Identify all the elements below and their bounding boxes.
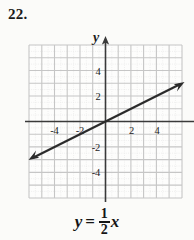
equation-lhs: y bbox=[75, 212, 83, 231]
x-tick-label-2: 2 bbox=[129, 125, 134, 136]
y-tick-label-4: 4 bbox=[95, 66, 101, 77]
coordinate-graph: y -4 -2 2 4 4 2 -2 -4 bbox=[0, 26, 194, 206]
fraction-numerator: 1 bbox=[99, 207, 110, 221]
equation-caption: y=12x bbox=[0, 207, 194, 237]
y-axis-label: y bbox=[91, 30, 100, 45]
y-tick-label-2: 2 bbox=[95, 91, 100, 102]
equation-relation: = bbox=[85, 212, 95, 231]
fraction-denominator: 2 bbox=[99, 223, 110, 237]
equation-fraction: 12 bbox=[99, 207, 110, 237]
problem-figure: 22. bbox=[0, 0, 194, 240]
y-tick-label--2: -2 bbox=[92, 142, 101, 153]
problem-number: 22. bbox=[8, 6, 27, 23]
y-tick-label--4: -4 bbox=[92, 167, 101, 178]
equation-rhs-variable: x bbox=[111, 212, 120, 231]
x-tick-label-4: 4 bbox=[154, 125, 160, 136]
x-tick-label--4: -4 bbox=[50, 125, 59, 136]
graph-svg: y -4 -2 2 4 4 2 -2 -4 bbox=[0, 26, 194, 206]
